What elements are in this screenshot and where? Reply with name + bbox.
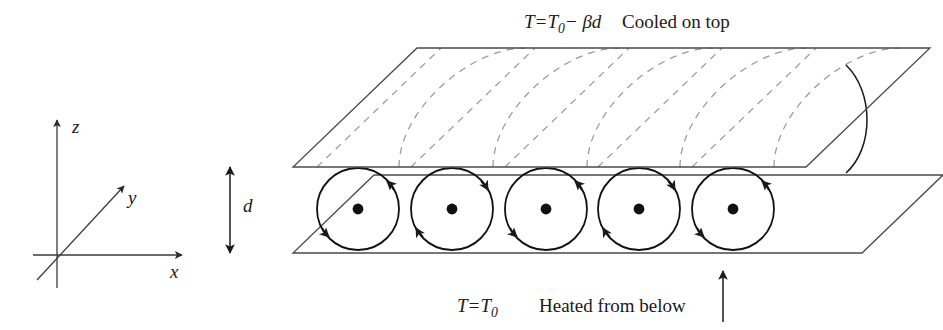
roll-core-4 xyxy=(634,204,645,215)
roll-3 xyxy=(505,168,587,250)
roll-core-3 xyxy=(541,204,552,215)
roll-1 xyxy=(317,168,399,250)
figure-canvas xyxy=(0,0,943,330)
roll-4 xyxy=(598,168,680,250)
bottom-temp-subscript: 0 xyxy=(491,305,498,320)
roll-arrow-2-bottom xyxy=(416,228,423,237)
hidden-roll-outlines xyxy=(317,48,900,167)
roll-5 xyxy=(692,168,774,250)
hidden-roll-arc-2 xyxy=(493,48,619,167)
axis-label-y: y xyxy=(128,188,136,207)
bottom-temp-symbol: T=T xyxy=(457,295,491,316)
roll-core-5 xyxy=(728,204,739,215)
top-temp-subscript: 0 xyxy=(558,21,565,36)
depth-label: d xyxy=(243,196,253,215)
top-boundary-temperature-label: T=T0− βd xyxy=(524,12,601,35)
roll-arrow-3-bottom xyxy=(510,228,517,237)
convection-figure: T=T0− βd Cooled on top T=T0 Heated from … xyxy=(0,0,943,330)
bottom-plate-outline xyxy=(293,175,943,253)
roll-arrow-5-top xyxy=(762,181,769,190)
coordinate-axes xyxy=(33,120,182,288)
hidden-roll-arc-1 xyxy=(399,48,525,167)
roll-arrow-4-bottom xyxy=(603,228,610,237)
top-temp-symbol: T=T xyxy=(524,11,558,32)
top-temp-rest: − βd xyxy=(565,11,602,32)
convection-rolls xyxy=(317,65,867,250)
roll-core-1 xyxy=(353,204,364,215)
axis-y-line xyxy=(37,186,124,280)
bottom-boundary-temperature-label: T=T0 xyxy=(457,296,498,319)
roll-core-2 xyxy=(447,204,458,215)
roll-arrow-2-top xyxy=(481,181,488,190)
top-plate-outline xyxy=(293,48,930,167)
axis-label-x: x xyxy=(170,262,178,281)
roll-arrow-1-bottom xyxy=(322,228,329,237)
roll-arrow-3-top xyxy=(575,181,582,190)
top-boundary-condition-label: Cooled on top xyxy=(622,12,730,31)
axis-label-z: z xyxy=(72,117,79,136)
top-plate xyxy=(293,48,930,167)
hidden-roll-arc-3 xyxy=(587,48,713,167)
hidden-roll-arc-5 xyxy=(774,48,900,167)
roll-arrow-1-top xyxy=(387,181,394,190)
hidden-roll-arc-4 xyxy=(680,48,806,167)
roll-arrow-5-bottom xyxy=(697,228,704,237)
roll-2 xyxy=(411,168,493,250)
bottom-plate xyxy=(293,175,943,253)
roll-arrow-4-top xyxy=(668,181,675,190)
bottom-boundary-condition-label: Heated from below xyxy=(539,296,686,315)
